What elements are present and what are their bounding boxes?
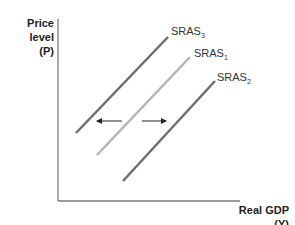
sras3-label: SRAS3 xyxy=(171,25,205,39)
sras3-curve xyxy=(76,37,168,133)
y-axis-symbol: (P) xyxy=(0,44,54,58)
sras2-curve xyxy=(123,81,215,181)
y-axis-label: Price level (P) xyxy=(0,16,54,58)
x-axis-label: Real GDP (Y) xyxy=(239,203,289,225)
sras1-label: SRAS1 xyxy=(194,47,228,61)
y-axis-title: Price level xyxy=(0,16,54,44)
sras1-curve xyxy=(97,57,190,155)
x-axis-symbol: (Y) xyxy=(239,217,289,225)
sras2-label: SRAS2 xyxy=(217,71,251,85)
x-axis-title: Real GDP xyxy=(239,203,289,217)
